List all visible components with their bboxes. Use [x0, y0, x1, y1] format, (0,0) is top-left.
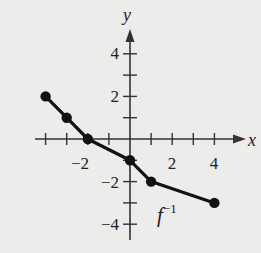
y-tick-label: −2 — [101, 173, 119, 192]
x-tick-label: 2 — [168, 154, 177, 173]
data-point — [125, 155, 135, 165]
inverse-function-graph: −2 2 4 4 2 −2 −4 x y f−1 — [0, 0, 261, 253]
curve-label: f−1 — [157, 201, 177, 227]
data-point — [40, 91, 50, 101]
x-axis-arrow-icon — [233, 135, 246, 144]
y-tick-label: 4 — [111, 44, 120, 63]
y-tick-label: −4 — [101, 215, 120, 234]
data-point — [61, 113, 71, 123]
curve-label-superscript: −1 — [163, 201, 177, 216]
y-axis-label: y — [121, 5, 131, 25]
y-axis-arrow-icon — [126, 29, 135, 42]
x-tick-label: −2 — [71, 154, 89, 173]
x-tick-label: 4 — [210, 154, 219, 173]
x-axis-label: x — [247, 130, 256, 150]
data-point — [146, 176, 156, 186]
data-point — [83, 134, 93, 144]
y-tick-label: 2 — [111, 87, 120, 106]
data-point — [209, 198, 219, 208]
